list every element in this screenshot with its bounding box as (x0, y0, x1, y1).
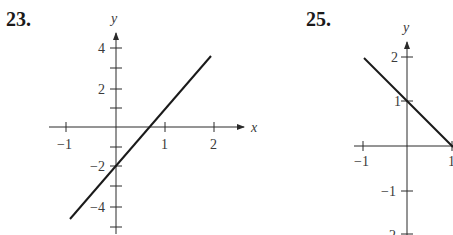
graph-23: x y −1 1 2 4 2 −2 −4 (49, 11, 258, 234)
plots-canvas: x y −1 1 2 4 2 −2 −4 y (0, 0, 453, 235)
graph-25-xtick-label: −1 (354, 154, 369, 169)
graph-25-data-line (364, 58, 453, 147)
graph-23-data-line (70, 56, 211, 219)
graph-23-ytick-label: 2 (98, 82, 105, 97)
graph-23-ytick-label: −2 (90, 159, 105, 174)
graph-25: y −1 1 2 1 −1 −2 (354, 20, 453, 235)
graph-23-xtick-label: 2 (210, 137, 217, 152)
graph-25-ytick-label: −1 (381, 184, 396, 199)
graph-23-ytick-label: 4 (98, 41, 105, 56)
graph-25-ytick-label: 1 (394, 94, 401, 109)
graph-23-ytick-label: −4 (90, 200, 105, 215)
graph-25-y-axis-label: y (401, 20, 410, 35)
graph-25-xtick-label: 1 (448, 154, 453, 169)
graph-23-x-axis-label: x (250, 120, 258, 135)
graph-23-y-axis-label: y (109, 11, 118, 26)
graph-23-xtick-label: 1 (161, 137, 168, 152)
graph-25-ytick-label: −2 (381, 228, 396, 235)
graph-23-xtick-label: −1 (57, 137, 72, 152)
graph-25-ytick-label: 2 (391, 50, 398, 65)
